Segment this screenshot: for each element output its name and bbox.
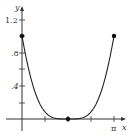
point-marker bbox=[66, 117, 70, 121]
chart: y 1.2 .8 .4 π x bbox=[0, 0, 130, 135]
x-tick-label-pi: π bbox=[111, 124, 116, 133]
y-axis-arrow-icon bbox=[20, 6, 24, 11]
x-axis-label: x bbox=[122, 123, 127, 132]
point-marker bbox=[20, 34, 24, 38]
y-axis-label: y bbox=[14, 3, 20, 12]
function-curve bbox=[22, 36, 114, 119]
highlighted-points bbox=[20, 34, 116, 121]
y-tick-label-0.4: .4 bbox=[11, 82, 19, 91]
y-tick-label-1.2: 1.2 bbox=[5, 16, 18, 25]
y-tick-label-0.8: .8 bbox=[11, 49, 19, 58]
x-axis-arrow-icon bbox=[121, 117, 126, 121]
point-marker bbox=[112, 34, 116, 38]
